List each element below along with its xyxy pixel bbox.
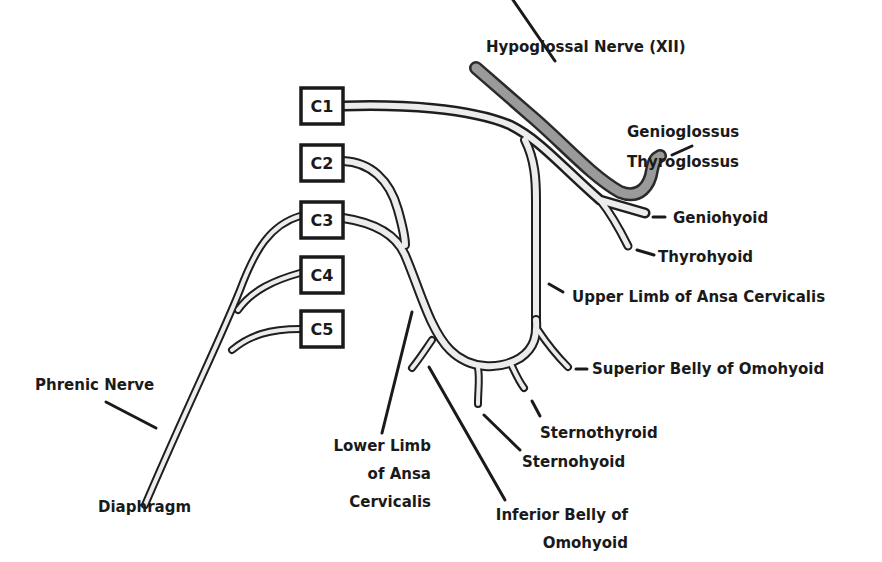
root-c2: C2 xyxy=(301,145,343,181)
leader-upper-limb xyxy=(549,284,563,292)
label-geniohyoid: Geniohyoid xyxy=(673,209,768,227)
label-upper-limb: Upper Limb of Ansa Cervicalis xyxy=(572,288,825,306)
root-c1-label: C1 xyxy=(311,97,334,116)
root-c3-label: C3 xyxy=(311,211,334,230)
leader-sternothyroid xyxy=(532,401,540,416)
label-lower-limb-1: Lower Limb xyxy=(333,437,431,455)
label-superior-belly: Superior Belly of Omohyoid xyxy=(592,360,824,378)
leader-phrenic xyxy=(106,402,156,428)
root-c1: C1 xyxy=(301,88,343,124)
label-thyroglossus: Thyroglossus xyxy=(627,153,739,171)
leader-lower-limb xyxy=(382,312,412,433)
label-lower-limb-2: of Ansa xyxy=(368,465,431,483)
ansa-cervicalis-diagram: C1 C2 C3 C4 C5 Hypoglossal Nerve (XII) G… xyxy=(0,0,882,562)
label-inferior-belly-2: Omohyoid xyxy=(543,534,628,552)
root-c2-label: C2 xyxy=(311,154,334,173)
root-c3: C3 xyxy=(301,202,343,238)
phrenic-nerve xyxy=(145,216,300,505)
label-hypoglossal: Hypoglossal Nerve (XII) xyxy=(486,38,686,56)
root-c5: C5 xyxy=(301,311,343,347)
label-phrenic: Phrenic Nerve xyxy=(35,376,154,394)
root-c4-label: C4 xyxy=(311,266,334,285)
leader-sternohyoid xyxy=(484,415,520,450)
leader-inferior-belly xyxy=(429,367,505,500)
leader-thyrohyoid xyxy=(637,250,654,255)
label-sternohyoid: Sternohyoid xyxy=(522,453,625,471)
label-sternothyroid: Sternothyroid xyxy=(540,424,658,442)
root-c5-label: C5 xyxy=(311,320,334,339)
label-lower-limb-3: Cervicalis xyxy=(349,493,431,511)
label-thyrohyoid: Thyrohyoid xyxy=(658,248,753,266)
label-genioglossus: Genioglossus xyxy=(627,123,739,141)
root-c4: C4 xyxy=(301,257,343,293)
label-diaphragm: Diaphragm xyxy=(98,498,191,516)
label-inferior-belly-1: Inferior Belly of xyxy=(496,506,629,524)
